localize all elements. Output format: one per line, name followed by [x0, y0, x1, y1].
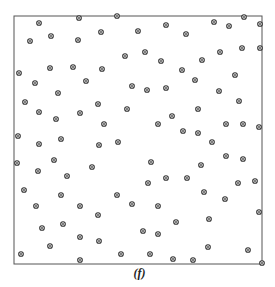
data-point [76, 38, 81, 43]
data-point [242, 15, 247, 20]
data-point [233, 73, 238, 78]
data-point [49, 34, 54, 39]
data-point [146, 181, 151, 186]
data-point [136, 29, 141, 34]
data-point [237, 99, 242, 104]
data-point [119, 252, 124, 257]
data-point [184, 32, 189, 37]
data-point [71, 65, 76, 70]
data-point [36, 169, 41, 174]
data-points [15, 14, 265, 266]
data-point [56, 91, 61, 96]
data-point [48, 244, 53, 249]
data-point [202, 190, 207, 195]
data-point [125, 107, 130, 112]
data-point [141, 229, 146, 234]
data-point [156, 232, 161, 237]
data-point [258, 46, 263, 51]
data-point [19, 252, 24, 257]
data-point [130, 202, 135, 207]
data-point [40, 226, 45, 231]
data-point [199, 163, 204, 168]
data-point [100, 67, 105, 72]
data-point [193, 78, 198, 83]
data-point [258, 22, 263, 27]
data-point [22, 188, 27, 193]
data-point [253, 179, 258, 184]
data-point [241, 122, 246, 127]
data-point [15, 161, 20, 166]
data-point [217, 89, 222, 94]
data-point [257, 125, 262, 130]
data-point [174, 220, 179, 225]
data-point [156, 122, 161, 127]
data-point [241, 157, 246, 162]
data-point [54, 117, 59, 122]
figure-caption: (f) [0, 266, 275, 281]
data-point [170, 114, 175, 119]
data-point [196, 131, 201, 136]
data-point [223, 197, 228, 202]
data-point [96, 102, 101, 107]
data-point [149, 160, 154, 165]
data-point [84, 79, 89, 84]
data-point [96, 213, 101, 218]
data-point [224, 154, 229, 159]
data-point [191, 258, 196, 263]
data-point [99, 30, 104, 35]
data-point [37, 21, 42, 26]
data-point [97, 239, 102, 244]
data-point [78, 235, 83, 240]
data-point [212, 20, 217, 25]
data-point [206, 245, 211, 250]
data-point [181, 129, 186, 134]
data-point [210, 140, 215, 145]
data-point [59, 137, 64, 142]
data-point [164, 176, 169, 181]
data-point [145, 88, 150, 93]
data-point [156, 204, 161, 209]
data-point [224, 122, 229, 127]
data-point [115, 14, 120, 19]
data-point [78, 204, 83, 209]
data-point [37, 110, 42, 115]
data-point [185, 176, 190, 181]
data-point [16, 134, 21, 139]
data-point [148, 252, 153, 257]
data-point [37, 142, 42, 147]
data-point [246, 248, 251, 253]
data-point [171, 257, 176, 262]
data-point [78, 258, 83, 263]
data-point [115, 193, 120, 198]
data-point [164, 86, 169, 91]
data-point [260, 261, 265, 266]
data-point [52, 158, 57, 163]
data-point [23, 100, 28, 105]
data-point [207, 217, 212, 222]
data-point [257, 210, 262, 215]
data-point [90, 165, 95, 170]
data-point [78, 111, 83, 116]
data-point [61, 222, 66, 227]
data-point [59, 193, 64, 198]
data-point [196, 107, 201, 112]
data-point [77, 16, 82, 21]
data-point [97, 143, 102, 148]
data-point [102, 122, 107, 127]
data-point [34, 204, 39, 209]
data-point [164, 23, 169, 28]
data-point [123, 54, 128, 59]
data-point [236, 181, 241, 186]
data-point [33, 81, 38, 86]
data-point [240, 46, 245, 51]
data-point [159, 59, 164, 64]
data-point [17, 71, 22, 76]
plot-frame [14, 16, 262, 264]
data-point [28, 39, 33, 44]
data-point [48, 66, 53, 71]
data-point [227, 24, 232, 29]
data-point [130, 84, 135, 89]
data-point [200, 58, 205, 63]
scatter-plot [0, 0, 275, 287]
data-point [143, 50, 148, 55]
